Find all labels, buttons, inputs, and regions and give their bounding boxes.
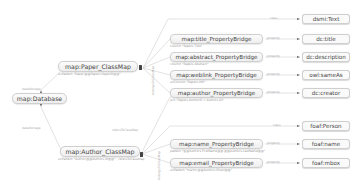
email-propertybridge-node[interactable]: map:email_PropertyBridge bbox=[170, 158, 263, 168]
author-property-edge-label: property bbox=[267, 91, 280, 94]
email-property-edge-label: property bbox=[267, 161, 280, 164]
target-dc-title[interactable]: dc:title bbox=[302, 34, 350, 44]
abstract-property-edge-label: property bbox=[267, 55, 280, 58]
paper-classmap-subtitle: uriPattern "Paper/@@Papers.PaperID@@" bbox=[58, 73, 121, 76]
email-propertybridge-subtitle: uriPattern "mailto:@@Authors.Email@@" bbox=[170, 169, 232, 172]
paper-class-edge-label: class bbox=[270, 17, 277, 20]
class-foaf-person[interactable]: foaf:Person bbox=[302, 121, 350, 131]
author-bridges-group-label: belongsToClassMap bbox=[158, 151, 161, 180]
weblink-propertybridge-node[interactable]: map:weblink_PropertyBridge bbox=[170, 70, 263, 80]
paper-classmap-handle[interactable] bbox=[139, 65, 142, 70]
abstract-propertybridge-subtitle: column "Papers.Abstract" bbox=[170, 63, 208, 66]
class-dsmi-text[interactable]: dsmi:Text bbox=[302, 14, 350, 24]
author-class-edge-label: class bbox=[273, 124, 280, 127]
title-property-edge-label: property bbox=[267, 37, 280, 40]
title-propertybridge-node[interactable]: map:title_PropertyBridge bbox=[170, 34, 263, 44]
author-classmap-handle[interactable] bbox=[140, 152, 143, 157]
edge-label-datastorage-paper: dataStorage bbox=[22, 88, 41, 91]
paper-classmap-node[interactable]: map:Paper_ClassMap bbox=[58, 61, 138, 72]
author-propertybridge-subtitle: join "Papers.AuthorID = Authors.ID" bbox=[170, 99, 224, 102]
target-foaf-mbox[interactable]: foaf:mbox bbox=[302, 158, 350, 168]
edge-label-datastorage-author: dataStorage bbox=[22, 127, 41, 130]
name-propertybridge-node[interactable]: map:name_PropertyBridge bbox=[170, 139, 263, 149]
refers-to-classmap-edge-label: refersToClassMap bbox=[112, 129, 138, 132]
target-owl-sameas[interactable]: owl:sameAs bbox=[302, 70, 350, 80]
paper-bridges-group-label: belongsToClassMap bbox=[152, 66, 155, 95]
target-dc-creator[interactable]: dc:creator bbox=[302, 88, 350, 98]
author-classmap-node[interactable]: map:Author_ClassMap bbox=[60, 146, 140, 157]
database-node[interactable]: map:Database bbox=[12, 93, 67, 104]
abstract-propertybridge-node[interactable]: map:abstract_PropertyBridge bbox=[170, 52, 263, 62]
name-propertybridge-subtitle: pattern "@@Authors.FirstName@@ @@Authors… bbox=[170, 150, 265, 153]
target-foaf-name[interactable]: foaf:name bbox=[302, 139, 350, 149]
weblink-propertybridge-subtitle: uriColumn "Papers.URI" bbox=[170, 81, 205, 84]
weblink-property-edge-label: property bbox=[267, 73, 280, 76]
name-property-edge-label: property bbox=[267, 142, 280, 145]
author-propertybridge-node[interactable]: map:author_PropertyBridge bbox=[170, 88, 263, 98]
title-propertybridge-subtitle: column "Papers.Title" bbox=[170, 45, 202, 48]
target-dc-description[interactable]: dc:description bbox=[302, 52, 350, 62]
author-classmap-subtitle: uriPattern "Author/@@Authors.ID@@" ; ref… bbox=[58, 158, 144, 161]
